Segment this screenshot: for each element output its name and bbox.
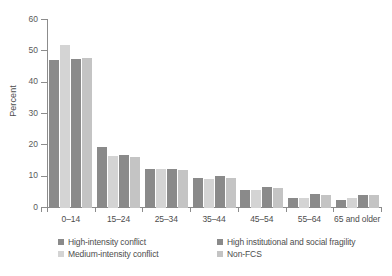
x-axis-tick [286, 207, 287, 212]
legend-swatch-icon [217, 239, 223, 245]
legend-row: Medium-intensity conflict Non-FCS [58, 248, 378, 260]
bar-group [336, 19, 379, 208]
bar-group [97, 19, 140, 208]
bar[interactable] [288, 198, 298, 208]
bar[interactable] [369, 195, 379, 208]
legend-label: Non-FCS [227, 250, 262, 259]
bar[interactable] [178, 170, 188, 208]
y-axis-tick-label: 50 [14, 46, 38, 55]
y-axis-tick-label: 60 [14, 15, 38, 24]
bar[interactable] [193, 178, 203, 208]
bar[interactable] [49, 60, 59, 208]
bar[interactable] [347, 198, 357, 208]
bar[interactable] [240, 190, 250, 208]
bar-group [49, 19, 92, 208]
legend-swatch-icon [58, 239, 64, 245]
bar[interactable] [358, 195, 368, 208]
bar[interactable] [321, 195, 331, 208]
bar[interactable] [60, 45, 70, 208]
bar-cluster [49, 19, 92, 208]
legend-swatch-icon [58, 251, 64, 257]
bar[interactable] [71, 59, 81, 208]
bar[interactable] [226, 178, 236, 208]
bar[interactable] [251, 190, 261, 208]
legend-row: High-intensity conflict High institution… [58, 236, 378, 248]
y-axis-tick-label: 10 [14, 171, 38, 180]
x-axis-tick [41, 207, 42, 212]
bar[interactable] [97, 147, 107, 208]
bar-cluster [193, 19, 236, 208]
legend-label: High-intensity conflict [68, 238, 146, 247]
bar[interactable] [273, 188, 283, 208]
legend-item-high-institutional-and-social-fragility: High institutional and social fragility [217, 236, 377, 248]
chart-figure: Percent 0102030405060 0–1415–2425–3435–4… [0, 0, 392, 276]
legend-item-non-fcs: Non-FCS [217, 248, 377, 260]
y-axis-tick-label: 30 [14, 109, 38, 118]
bar-cluster [240, 19, 283, 208]
y-axis-tick-label: 0 [14, 203, 38, 212]
legend-swatch-icon [217, 251, 223, 257]
y-axis-tick-label: 40 [14, 77, 38, 86]
bar[interactable] [82, 58, 92, 208]
bar-group [288, 19, 331, 208]
bar-group [193, 19, 236, 208]
bar[interactable] [119, 155, 129, 208]
bar[interactable] [130, 157, 140, 208]
legend-label: High institutional and social fragility [227, 238, 355, 247]
x-axis-tick [95, 207, 96, 212]
bar-cluster [97, 19, 140, 208]
bar-group [145, 19, 188, 208]
bar[interactable] [108, 156, 118, 208]
bar[interactable] [167, 169, 177, 208]
x-axis-tick [333, 207, 334, 212]
bar[interactable] [336, 200, 346, 208]
bar-cluster [288, 19, 331, 208]
bar-group [240, 19, 283, 208]
bar[interactable] [156, 169, 166, 208]
x-axis-tick [238, 207, 239, 212]
legend-label: Medium-intensity conflict [68, 250, 159, 259]
bar[interactable] [299, 198, 309, 208]
bar-cluster [336, 19, 379, 208]
bar[interactable] [310, 194, 320, 208]
legend-item-high-intensity-conflict: High-intensity conflict [58, 236, 217, 248]
x-axis-tick [381, 207, 382, 212]
bar[interactable] [215, 176, 225, 208]
chart-legend: High-intensity conflict High institution… [58, 236, 378, 260]
bar-cluster [145, 19, 188, 208]
legend-item-medium-intensity-conflict: Medium-intensity conflict [58, 248, 217, 260]
y-axis-tick-label: 20 [14, 140, 38, 149]
x-axis-tick [190, 207, 191, 212]
x-axis-tick [142, 207, 143, 212]
x-axis-tick [47, 207, 48, 212]
bar[interactable] [145, 169, 155, 208]
bar[interactable] [262, 187, 272, 208]
plot-area [47, 19, 380, 208]
bar[interactable] [204, 179, 214, 208]
x-axis-tick-label: 65 and older [317, 214, 392, 224]
